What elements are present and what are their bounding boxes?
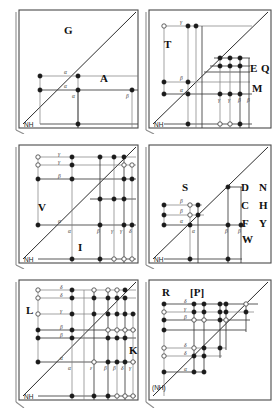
greek-label: β: [224, 228, 228, 234]
greek-label: β: [59, 332, 63, 338]
greek-label: α: [58, 218, 61, 224]
panel-top-left: G A α α α β NH: [12, 8, 140, 134]
residue-label-S: S: [182, 181, 188, 193]
greek-label: δ: [121, 365, 124, 371]
residue-label-F: F: [242, 217, 249, 229]
greek-label: β: [179, 75, 183, 81]
greek-label: α: [68, 228, 71, 234]
residue-label-V: V: [38, 201, 46, 213]
greek-label: β: [57, 173, 61, 179]
greek-label: δ: [184, 350, 187, 356]
greek-label: δ: [129, 228, 132, 234]
residue-label-W: W: [242, 233, 253, 245]
greek-label: δ: [184, 342, 187, 348]
greek-label: β: [59, 324, 63, 330]
panel-bottom-left: L K δ δ γ β β α α ε β β δ γ NH: [12, 278, 140, 408]
residue-label-A: A: [100, 72, 108, 84]
residue-label-R: R: [162, 286, 171, 298]
greek-label: δ: [60, 292, 63, 298]
residue-label-T: T: [164, 38, 172, 50]
greek-label: β: [183, 314, 187, 320]
origin-label-nh: (NH): [152, 384, 166, 392]
panel-4-canvas: S D N C H F Y W β β α α β β NH: [142, 143, 274, 269]
panel-middle-left: V I γ γ β α α β γ γ δ NH: [12, 143, 140, 269]
greek-label: α: [60, 355, 63, 361]
residue-label-H: H: [259, 199, 268, 211]
figure-root: G A α α α β NH: [0, 0, 280, 420]
greek-label: α: [192, 228, 195, 234]
residue-label-C: C: [241, 199, 249, 211]
residue-label-K: K: [129, 344, 138, 356]
greek-label: β: [96, 228, 100, 234]
greek-label: δ: [184, 298, 187, 304]
greek-label: β: [179, 198, 183, 204]
panel-top-right: T E Q M γ β α γ γ β β NH: [142, 8, 274, 134]
residue-label-Y: Y: [259, 217, 267, 229]
panel-bottom-right: R [P] δ γ β δ δ α (NH): [142, 278, 274, 408]
panel-3-canvas: V I γ γ β α α β γ γ δ NH: [12, 143, 140, 269]
greek-label: α: [184, 366, 187, 372]
greek-label: β: [179, 208, 183, 214]
greek-label: α: [64, 69, 67, 75]
residue-label-L: L: [26, 304, 33, 316]
greek-label: δ: [60, 284, 63, 290]
greek-label: β: [246, 97, 250, 103]
panel-5-canvas: L K δ δ γ β β α α ε β β δ γ NH: [12, 278, 140, 408]
residue-label-P: [P]: [190, 286, 204, 298]
residue-label-G: G: [64, 24, 73, 36]
greek-label: α: [72, 93, 75, 99]
origin-label-nh: NH: [24, 121, 34, 128]
origin-label-nh: NH: [154, 121, 164, 128]
panel-1-canvas: G A α α α β NH: [12, 8, 140, 134]
panel-2-canvas: T E Q M γ β α γ γ β β NH: [142, 8, 274, 134]
origin-label-nh: NH: [154, 256, 164, 263]
greek-label: β: [237, 228, 241, 234]
origin-label-nh: NH: [24, 256, 34, 263]
greek-label: α: [64, 83, 67, 89]
greek-label: β: [112, 365, 116, 371]
origin-label-nh: NH: [24, 393, 34, 400]
panel-middle-right: S D N C H F Y W β β α α β β NH: [142, 143, 274, 269]
greek-label: α: [180, 218, 183, 224]
residue-label-Q: Q: [261, 62, 270, 74]
residue-label-N: N: [259, 181, 267, 193]
residue-label-M: M: [252, 82, 263, 94]
greek-label: β: [125, 93, 129, 99]
panel-6-canvas: R [P] δ γ β δ δ α (NH): [142, 278, 274, 408]
greek-label: β: [237, 97, 241, 103]
greek-label: α: [68, 365, 71, 371]
residue-label-I: I: [78, 241, 82, 253]
residue-label-D: D: [241, 181, 249, 193]
greek-label: α: [180, 87, 183, 93]
residue-label-E: E: [250, 62, 257, 74]
greek-label: β: [103, 365, 107, 371]
